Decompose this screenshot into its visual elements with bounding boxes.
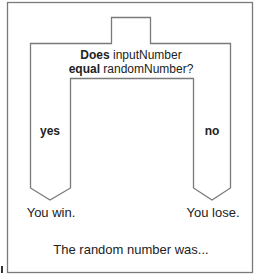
decision-block-outline bbox=[31, 18, 231, 201]
condition-line-1: Does inputNumber bbox=[80, 48, 181, 62]
branch-label-yes: yes bbox=[40, 124, 60, 138]
result-no: You lose. bbox=[186, 206, 239, 220]
condition-line-2: equal randomNumber? bbox=[69, 62, 194, 76]
edge-mark bbox=[1, 266, 3, 273]
condition-text-1: inputNumber bbox=[110, 48, 182, 62]
condition-keyword-equal: equal bbox=[69, 62, 100, 76]
result-yes: You win. bbox=[27, 206, 76, 220]
condition-keyword-does: Does bbox=[80, 48, 109, 62]
footer-text: The random number was... bbox=[53, 243, 208, 257]
condition-text-2: randomNumber? bbox=[100, 62, 193, 76]
diagram-canvas bbox=[0, 0, 259, 275]
branch-label-no: no bbox=[205, 124, 220, 138]
